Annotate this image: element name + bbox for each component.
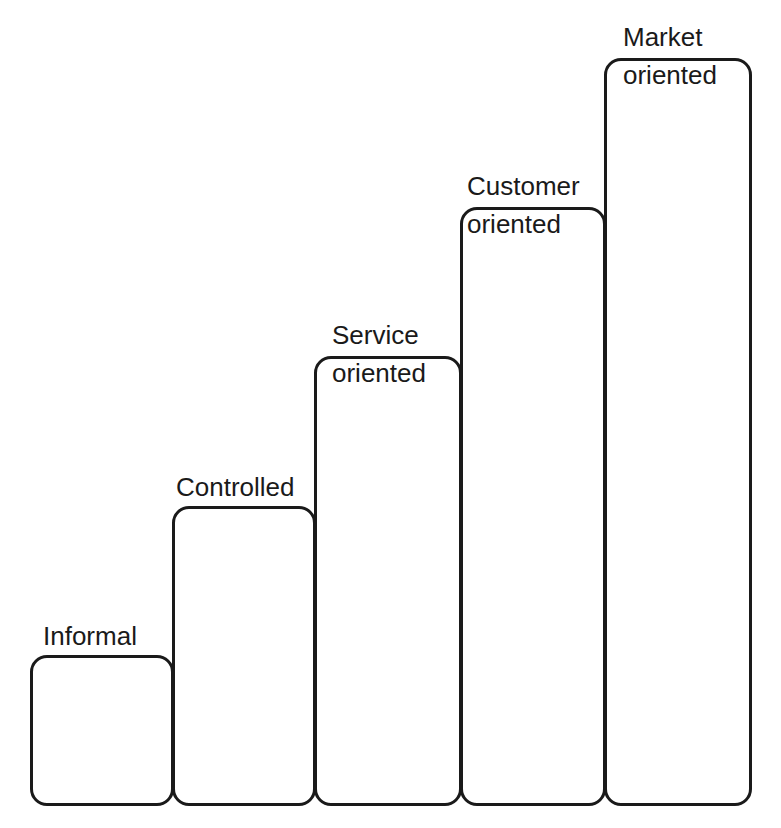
step-service-oriented-label-line1: Service — [332, 322, 419, 349]
step-market-oriented-label-line1: Market — [623, 24, 702, 51]
step-market-oriented-label-line2: oriented — [623, 62, 717, 89]
step-customer-oriented-box — [460, 207, 606, 806]
step-service-oriented-label-line2: oriented — [332, 360, 426, 387]
step-customer-oriented-label-line1: Customer — [467, 173, 580, 200]
step-controlled-label: Controlled — [176, 474, 295, 501]
step-informal-label: Informal — [43, 623, 137, 650]
step-informal-box — [30, 655, 174, 806]
step-market-oriented-box — [604, 58, 752, 806]
step-service-oriented-box — [314, 356, 462, 806]
step-controlled-box — [172, 506, 316, 806]
step-customer-oriented-label-line2: oriented — [467, 211, 561, 238]
